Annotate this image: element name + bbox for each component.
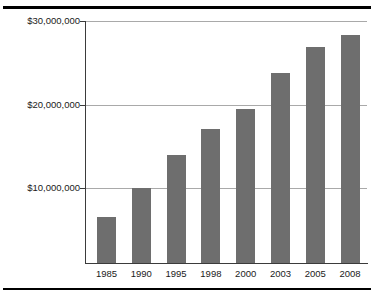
y-tick <box>80 105 86 106</box>
y-tick <box>80 21 86 22</box>
x-axis-line <box>85 263 368 264</box>
bar-2008 <box>341 35 360 263</box>
bar-2003 <box>271 73 290 263</box>
y-axis-tick-label: $10,000,000 <box>2 182 80 193</box>
gridline-30000000 <box>85 21 367 22</box>
bar-1995 <box>167 155 186 263</box>
x-axis-tick-label-2008: 2008 <box>330 268 370 279</box>
y-axis-line <box>85 21 86 264</box>
y-tick <box>80 188 86 189</box>
bar-1985 <box>97 217 116 263</box>
y-axis-tick-label: $30,000,000 <box>2 15 80 26</box>
bar-2005 <box>306 47 325 263</box>
bar-1998 <box>201 129 220 263</box>
bar-1990 <box>132 188 151 263</box>
y-axis-tick-label: $20,000,000 <box>2 99 80 110</box>
plot-area <box>85 21 367 264</box>
bar-chart-figure: $10,000,000$20,000,000$30,000,000 198519… <box>0 0 374 299</box>
bar-2000 <box>236 109 255 263</box>
